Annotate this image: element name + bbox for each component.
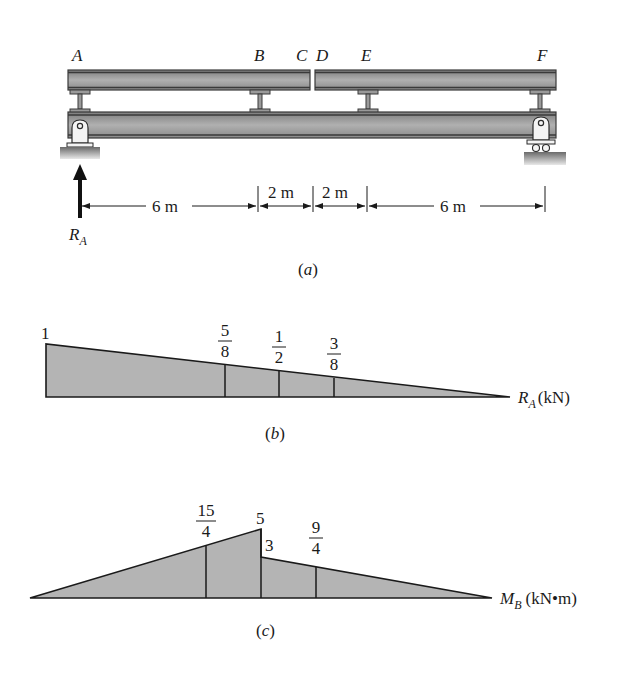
stringer-right (315, 70, 556, 90)
reaction-label: RA (68, 225, 87, 248)
caption-b: (b) (265, 424, 285, 443)
main-girder (68, 112, 556, 138)
value-label-15-4: 15 4 (196, 501, 216, 541)
value-label-3-8: 3 8 (327, 334, 341, 374)
value-label-3: 3 (265, 536, 274, 555)
svg-text:5: 5 (221, 321, 230, 340)
point-label-f: F (536, 46, 548, 65)
dimension-label-bc: 2 m (268, 183, 294, 202)
axis-label-ra: RA(kN) (517, 388, 570, 411)
figure-a-structure: A B C D E F (60, 46, 566, 279)
floor-beam-f (530, 90, 550, 113)
point-label-d: D (315, 46, 329, 65)
value-label-1-2: 1 2 (272, 327, 286, 367)
value-label-5: 5 (256, 509, 265, 528)
dimension-label-ab: 6 m (152, 197, 178, 216)
svg-text:3: 3 (330, 334, 339, 353)
svg-text:4: 4 (312, 539, 321, 558)
point-label-a: A (71, 46, 83, 65)
svg-text:8: 8 (221, 342, 230, 361)
dimension-label-ef: 6 m (440, 197, 466, 216)
axis-label-mb: MB(kN•m) (499, 589, 577, 612)
point-label-b: B (254, 46, 265, 65)
svg-text:1: 1 (275, 327, 284, 346)
dimension-label-de: 2 m (322, 183, 348, 202)
point-label-c: C (296, 46, 308, 65)
reaction-arrow-icon (73, 164, 87, 218)
influence-line-ra: 1 5 8 1 2 3 8 RA(kN) (b) (41, 321, 570, 443)
value-label-9-4: 9 4 (309, 518, 323, 558)
floor-beam-a (70, 90, 90, 113)
figure-canvas: A B C D E F (0, 0, 641, 676)
influence-line-mb: 15 4 5 3 9 4 MB(kN•m) (c) (30, 501, 577, 640)
svg-text:2: 2 (275, 348, 284, 367)
svg-text:15: 15 (198, 501, 215, 520)
value-label-1: 1 (41, 324, 50, 343)
caption-c: (c) (256, 621, 275, 640)
value-label-5-8: 5 8 (218, 321, 232, 361)
caption-a: (a) (298, 260, 318, 279)
floor-beam-b (250, 90, 270, 113)
svg-text:8: 8 (330, 355, 339, 374)
stringer-left (68, 70, 310, 90)
point-label-e: E (360, 46, 372, 65)
svg-text:9: 9 (312, 518, 321, 537)
floor-beam-e (358, 90, 378, 113)
svg-text:4: 4 (202, 522, 211, 541)
